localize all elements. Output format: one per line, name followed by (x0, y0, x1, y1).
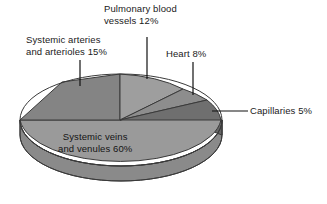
slice-label-systemic-arteries-line1: Systemic arteries (26, 34, 107, 46)
slice-label-capillaries-line1: Capillaries 5% (250, 105, 312, 117)
slice-label-heart-line1: Heart 8% (166, 48, 206, 60)
slice-label-pulmonary-vessels: Pulmonary blood vessels 12% (104, 3, 177, 26)
slice-label-systemic-arteries-line2: and arterioles 15% (26, 46, 107, 58)
pie-slice-systemic-arteries (20, 74, 120, 120)
pie-chart-figure: Pulmonary blood vessels 12% Systemic art… (0, 0, 327, 204)
slice-label-capillaries: Capillaries 5% (250, 105, 312, 117)
slice-label-pulmonary-vessels-line1: Pulmonary blood (104, 3, 177, 15)
slice-label-systemic-veins-line1: Systemic veins (58, 131, 132, 143)
slice-label-pulmonary-vessels-line2: vessels 12% (104, 15, 177, 27)
slice-label-systemic-veins: Systemic veins and venules 60% (58, 131, 132, 154)
slice-label-systemic-arteries: Systemic arteries and arterioles 15% (26, 34, 107, 57)
slice-label-systemic-veins-line2: and venules 60% (58, 143, 132, 155)
slice-label-heart: Heart 8% (166, 48, 206, 60)
pie-chart-graphic (0, 0, 327, 204)
